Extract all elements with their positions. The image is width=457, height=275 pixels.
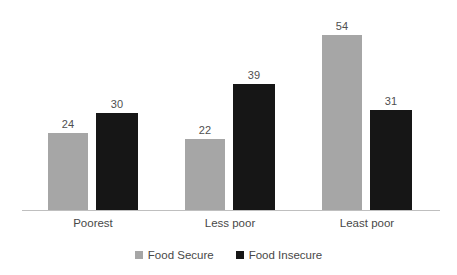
chart-legend: Food Secure Food Insecure	[0, 246, 457, 264]
bar-label-less-poor-food-secure: 22	[183, 124, 227, 137]
legend-label-food-insecure: Food Insecure	[249, 249, 323, 262]
bar-label-least-poor-food-secure: 54	[320, 20, 364, 33]
legend-item-food-secure[interactable]: Food Secure	[135, 249, 214, 262]
bar-group-less-poor: 22 39	[185, 0, 275, 211]
bar-group-poorest: 24 30	[48, 0, 138, 211]
legend-swatch-icon-food-insecure	[236, 251, 244, 259]
category-label-poorest: Poorest	[23, 215, 163, 231]
bar-chart: 24 30 22 39 54 31 Poorest Less poor Leas…	[0, 0, 457, 275]
category-label-less-poor: Less poor	[160, 215, 300, 231]
legend-item-food-insecure[interactable]: Food Insecure	[236, 249, 323, 262]
bar-less-poor-food-secure	[185, 139, 225, 211]
bar-poorest-food-secure	[48, 133, 88, 211]
bar-label-poorest-food-secure: 24	[46, 118, 90, 131]
bar-least-poor-food-insecure	[370, 110, 412, 211]
bar-label-less-poor-food-insecure: 39	[232, 69, 276, 82]
bar-least-poor-food-secure	[322, 35, 362, 211]
category-label-least-poor: Least poor	[297, 215, 437, 231]
bar-less-poor-food-insecure	[233, 84, 275, 211]
plot-area: 24 30 22 39 54 31	[0, 0, 457, 211]
x-axis-line	[22, 210, 440, 211]
bar-group-least-poor: 54 31	[322, 0, 412, 211]
legend-swatch-icon-food-secure	[135, 251, 143, 259]
bar-label-poorest-food-insecure: 30	[95, 98, 139, 111]
bar-label-least-poor-food-insecure: 31	[369, 95, 413, 108]
legend-label-food-secure: Food Secure	[148, 249, 214, 262]
category-axis-labels: Poorest Less poor Least poor	[0, 215, 457, 237]
bar-poorest-food-insecure	[96, 113, 138, 211]
